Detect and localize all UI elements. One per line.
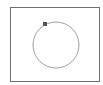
point-marker [43, 22, 47, 26]
circle-shape [33, 22, 79, 68]
diagram-canvas [0, 0, 103, 85]
